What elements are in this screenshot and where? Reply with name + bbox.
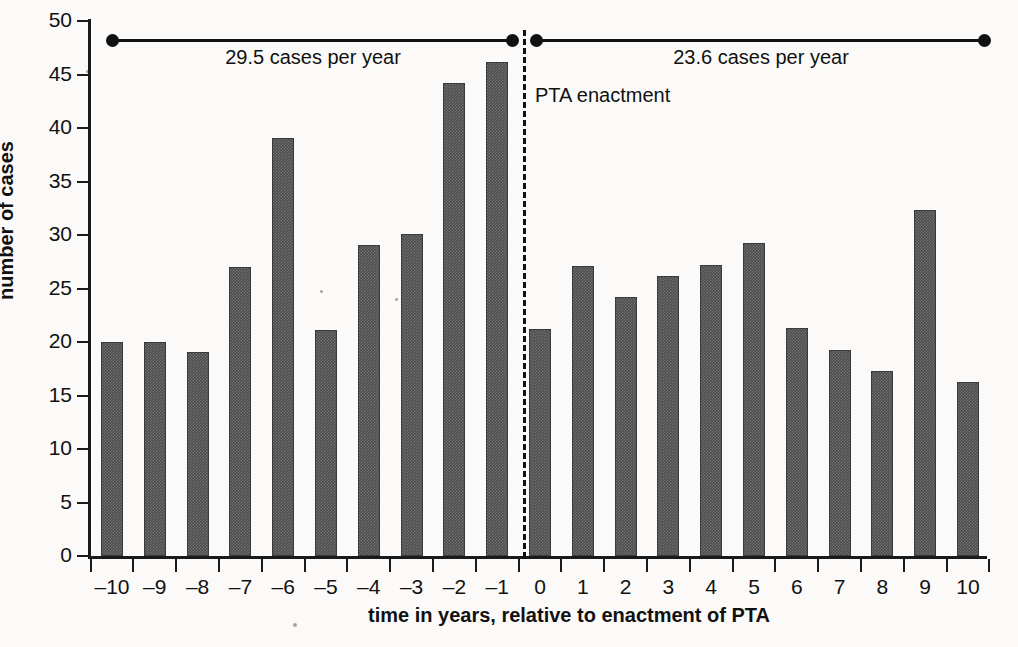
y-tick-label: 35 (24, 169, 72, 193)
bar (786, 328, 808, 556)
x-tick (774, 559, 776, 572)
bar (871, 371, 893, 556)
y-axis-title: number of cases (0, 141, 18, 300)
x-tick (946, 559, 948, 572)
post-enactment-rate-label: 23.6 cases per year (537, 46, 985, 69)
bar (101, 342, 123, 556)
x-tick-label: 10 (938, 575, 998, 599)
bar (443, 83, 465, 556)
bar (572, 266, 594, 556)
y-tick-label: 5 (24, 490, 72, 514)
bar (700, 265, 722, 556)
x-tick (175, 559, 177, 572)
bar (829, 350, 851, 557)
x-tick (817, 559, 819, 572)
x-tick (218, 559, 220, 572)
x-tick (646, 559, 648, 572)
y-tick-label: 15 (24, 383, 72, 407)
x-tick (432, 559, 434, 572)
y-tick-label: 50 (24, 8, 72, 32)
bar (272, 138, 294, 556)
bar (529, 329, 551, 556)
figure-container: number of cases 05101520253035404550 –10… (0, 0, 1018, 647)
x-tick (689, 559, 691, 572)
x-axis-title: time in years, relative to enactment of … (0, 604, 1018, 627)
x-tick (518, 559, 520, 572)
y-tick-label: 30 (24, 222, 72, 246)
bar (187, 352, 209, 556)
bar (486, 62, 508, 556)
x-tick (261, 559, 263, 572)
pre-enactment-span-line (113, 39, 513, 42)
pta-enactment-divider-line (523, 30, 526, 558)
bar (657, 276, 679, 556)
y-tick-label: 10 (24, 436, 72, 460)
x-tick (988, 559, 990, 572)
bar (144, 342, 166, 556)
post-enactment-span-line (537, 39, 985, 42)
bar (315, 330, 337, 556)
y-tick-label: 25 (24, 276, 72, 300)
bar (401, 234, 423, 556)
bar (914, 210, 936, 556)
x-tick (732, 559, 734, 572)
x-tick (346, 559, 348, 572)
pre-enactment-rate-label: 29.5 cases per year (113, 46, 513, 69)
y-tick-label: 40 (24, 115, 72, 139)
bar (358, 245, 380, 556)
x-tick (389, 559, 391, 572)
bar (957, 382, 979, 556)
x-axis-line (88, 556, 987, 559)
x-tick (132, 559, 134, 572)
x-tick (860, 559, 862, 572)
bar (229, 267, 251, 556)
bar (615, 297, 637, 556)
y-tick-label: 0 (24, 543, 72, 567)
y-tick-label: 20 (24, 329, 72, 353)
x-tick (560, 559, 562, 572)
x-tick (903, 559, 905, 572)
pta-enactment-label: PTA enactment (535, 84, 670, 107)
x-tick (90, 559, 92, 572)
x-tick (475, 559, 477, 572)
x-tick (304, 559, 306, 572)
x-tick (603, 559, 605, 572)
bar (743, 243, 765, 557)
y-tick-label: 45 (24, 62, 72, 86)
